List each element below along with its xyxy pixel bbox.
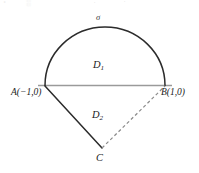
label-point-c: C — [96, 153, 103, 164]
label-point-b: B(1,0) — [161, 88, 185, 98]
label-sigma: σ — [96, 13, 100, 22]
arc-sigma — [45, 27, 165, 85]
label-d1-subscript: 1 — [101, 64, 105, 72]
label-region-d2: D2 — [92, 110, 103, 122]
label-d2-base: D — [92, 109, 100, 120]
label-d1-base: D — [93, 59, 101, 70]
geometry-figure: ˚ ░ ˙ ˙ σ D1 D2 A(−1,0) B(1,0) C — [0, 0, 199, 173]
label-region-d1: D1 — [93, 60, 104, 72]
label-point-a: A(−1,0) — [11, 88, 41, 98]
label-d2-subscript: 2 — [100, 114, 104, 122]
segment-cb-dashed — [102, 86, 165, 148]
